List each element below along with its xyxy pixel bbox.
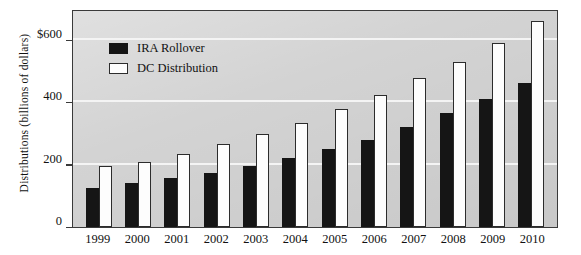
bar-group — [472, 11, 511, 227]
x-tick-label: 2006 — [355, 230, 395, 252]
x-tick-label: 1999 — [78, 230, 118, 252]
bar-dc-distribution — [492, 43, 505, 227]
bar-dc-distribution — [177, 154, 190, 227]
bar-group — [512, 11, 551, 227]
bar-ira-rollover — [479, 99, 492, 227]
bar-ira-rollover — [440, 113, 453, 227]
plot-area: IRA Rollover DC Distribution — [72, 10, 558, 228]
bar-ira-rollover — [164, 178, 177, 227]
bar-dc-distribution — [531, 21, 544, 227]
bar-ira-rollover — [282, 158, 295, 227]
x-tick-label: 2008 — [434, 230, 474, 252]
chart-legend: IRA Rollover DC Distribution — [109, 41, 218, 81]
bar-ira-rollover — [322, 149, 335, 227]
bar-group — [394, 11, 433, 227]
bar-group — [315, 11, 354, 227]
x-axis-tick-labels: 1999200020012002200320042005200620072008… — [72, 230, 558, 252]
bar-dc-distribution — [453, 62, 466, 227]
bar-group — [276, 11, 315, 227]
bar-dc-distribution — [295, 123, 308, 227]
bar-ira-rollover — [86, 188, 99, 227]
x-tick-label: 2001 — [157, 230, 197, 252]
legend-label-ira-rollover: IRA Rollover — [137, 41, 205, 56]
bar-dc-distribution — [99, 166, 112, 227]
bar-ira-rollover — [204, 173, 217, 228]
x-tick-label: 2010 — [513, 230, 553, 252]
y-tick-label: $600 — [37, 27, 62, 42]
x-tick-label: 2005 — [315, 230, 355, 252]
x-tick-label: 2003 — [236, 230, 276, 252]
x-tick-label: 2000 — [118, 230, 158, 252]
bar-ira-rollover — [518, 83, 531, 227]
bar-chart-figure: Distributions (billions of dollars) 0200… — [0, 0, 581, 255]
legend-swatch-dc-distribution — [109, 63, 128, 74]
x-tick-label: 2004 — [276, 230, 316, 252]
bar-ira-rollover — [400, 127, 413, 227]
legend-item-ira-rollover: IRA Rollover — [109, 41, 218, 56]
legend-swatch-ira-rollover — [109, 43, 128, 54]
y-tick-label: 400 — [43, 89, 62, 104]
legend-label-dc-distribution: DC Distribution — [137, 61, 218, 76]
bar-group — [236, 11, 275, 227]
bar-ira-rollover — [125, 183, 138, 227]
y-axis-tick-labels: 0200400$600 — [0, 10, 66, 228]
bar-dc-distribution — [335, 109, 348, 227]
legend-item-dc-distribution: DC Distribution — [109, 61, 218, 76]
bar-dc-distribution — [374, 95, 387, 227]
y-tick-label: 0 — [56, 214, 62, 229]
bar-group — [354, 11, 393, 227]
x-tick-label: 2009 — [473, 230, 513, 252]
bar-ira-rollover — [361, 140, 374, 227]
bar-dc-distribution — [217, 144, 230, 227]
bar-dc-distribution — [413, 78, 426, 227]
y-tick-label: 200 — [43, 151, 62, 166]
bar-dc-distribution — [138, 162, 151, 227]
x-tick-label: 2002 — [197, 230, 237, 252]
bar-dc-distribution — [256, 134, 269, 227]
bar-ira-rollover — [243, 166, 256, 227]
x-tick-label: 2007 — [394, 230, 434, 252]
bar-group — [433, 11, 472, 227]
